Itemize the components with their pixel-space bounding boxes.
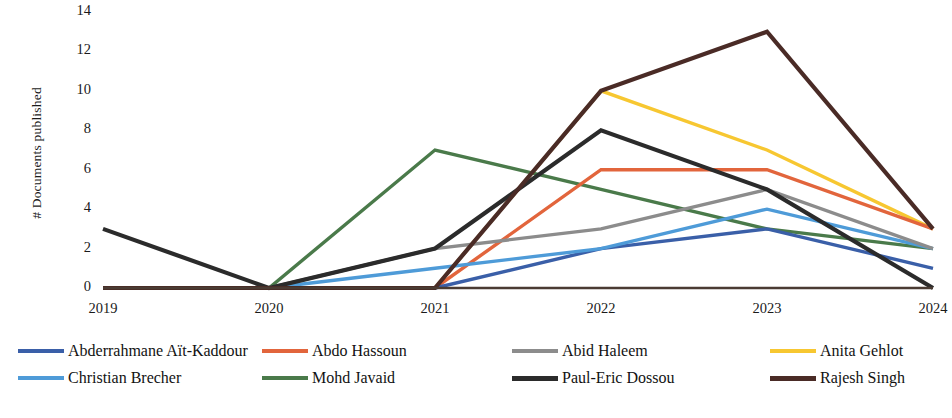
legend-color-swatch [262, 349, 308, 353]
legend-label: Mohd Javaid [312, 370, 395, 386]
legend-item[interactable]: Abid Haleem [512, 338, 648, 364]
legend-color-swatch [18, 376, 64, 380]
legend-color-swatch [770, 349, 816, 353]
series-line [103, 209, 933, 288]
legend-item[interactable]: Paul-Eric Dossou [512, 365, 674, 391]
series-line [103, 130, 933, 288]
legend-label: Paul-Eric Dossou [562, 370, 674, 386]
legend-item[interactable]: Rajesh Singh [770, 365, 905, 391]
plot-area [0, 0, 946, 338]
legend-item[interactable]: Abdo Hassoun [262, 338, 407, 364]
legend-item[interactable]: Abderrahmane Aït-Kaddour [18, 338, 248, 364]
legend-color-swatch [770, 376, 816, 381]
legend-item[interactable]: Anita Gehlot [770, 338, 903, 364]
chart-legend: Abderrahmane Aït-KaddourAbdo HassounAbid… [0, 338, 946, 414]
legend-label: Abid Haleem [562, 343, 648, 359]
legend-label: Anita Gehlot [820, 343, 903, 359]
legend-item[interactable]: Christian Brecher [18, 365, 181, 391]
legend-color-swatch [512, 349, 558, 353]
legend-row: Christian BrecherMohd JavaidPaul-Eric Do… [0, 365, 946, 395]
legend-color-swatch [18, 349, 64, 353]
legend-label: Rajesh Singh [820, 370, 905, 386]
legend-color-swatch [512, 376, 558, 381]
series-line [103, 32, 933, 288]
legend-label: Christian Brecher [68, 370, 181, 386]
legend-color-swatch [262, 376, 308, 380]
legend-row: Abderrahmane Aït-KaddourAbdo HassounAbid… [0, 338, 946, 368]
legend-label: Abderrahmane Aït-Kaddour [68, 343, 248, 359]
legend-label: Abdo Hassoun [312, 343, 407, 359]
legend-item[interactable]: Mohd Javaid [262, 365, 395, 391]
